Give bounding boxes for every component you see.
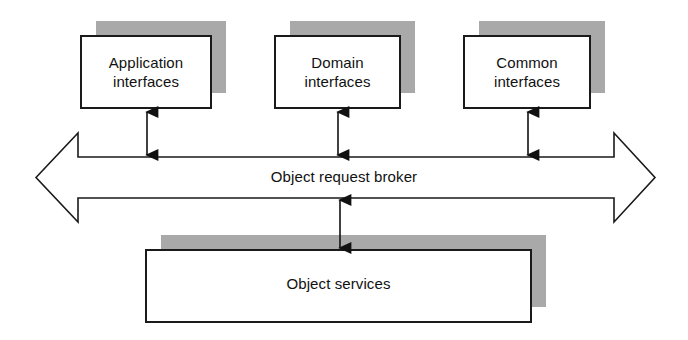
common-interfaces-box[interactable] bbox=[464, 36, 590, 108]
object-services-label: Object services bbox=[146, 275, 531, 292]
domain-interfaces-box[interactable] bbox=[275, 36, 400, 108]
object-request-broker-label: Object request broker bbox=[0, 168, 688, 185]
application-interfaces-box[interactable] bbox=[81, 36, 211, 108]
diagram-canvas: Application interfaces Domain interfaces… bbox=[0, 0, 688, 340]
